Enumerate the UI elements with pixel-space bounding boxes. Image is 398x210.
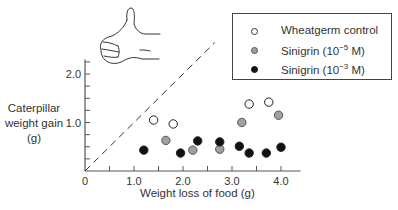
data-point [262, 149, 270, 157]
filled-circle-icon [251, 66, 258, 73]
legend-label: Wheatgerm control [281, 24, 378, 36]
data-point [265, 98, 273, 106]
x-tick-label: 3.0 [224, 175, 239, 187]
legend-label: Sinigrin (10−5 M) [281, 43, 365, 57]
x-axis-label: Weight loss of food (g) [140, 187, 255, 199]
legend-label: Sinigrin (10−3 M) [281, 62, 365, 76]
data-point [169, 120, 177, 128]
y-label-line-1: Caterpillar [0, 101, 68, 116]
x-tick-label: 1.0 [126, 175, 141, 187]
x-tick-label: 4.0 [273, 175, 288, 187]
legend: Wheatgerm control Sinigrin (10−5 M) Sini… [232, 13, 392, 80]
data-point [216, 138, 224, 146]
data-point [176, 149, 184, 157]
data-point [162, 136, 170, 144]
y-label-line-3: (g) [0, 131, 68, 146]
open-circle-icon [251, 28, 258, 35]
data-point [140, 146, 148, 154]
data-point [277, 143, 285, 151]
data-point [189, 146, 197, 154]
y-label-line-2: weight gain [0, 116, 68, 131]
data-point [149, 116, 157, 124]
x-tick-label: 0 [82, 175, 88, 187]
data-point [245, 100, 253, 108]
y-tick-label: 2.0 [66, 68, 81, 80]
data-point [194, 137, 202, 145]
data-point [238, 118, 246, 126]
data-point [274, 111, 282, 119]
data-point [235, 142, 243, 150]
gray-circle-icon [251, 47, 258, 54]
y-axis-label: Caterpillar weight gain (g) [0, 101, 68, 146]
thumbs-up-icon [100, 8, 160, 63]
data-point [245, 149, 253, 157]
x-tick-label: 2.0 [175, 175, 190, 187]
